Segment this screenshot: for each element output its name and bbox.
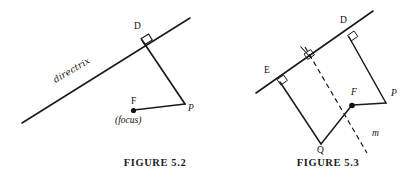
point-label-q-fig53: Q — [317, 146, 324, 156]
right-angle-mark-d-fig53 — [348, 31, 358, 41]
focus-note-label-fig52: (focus) — [115, 116, 141, 126]
directrix-line-fig53 — [256, 11, 373, 93]
segment-q-to-f-fig53 — [321, 105, 352, 144]
point-label-e-fig53: E — [264, 66, 270, 76]
figure-sheet: directrix D F (focus) P FIGURE 5.2 E D P… — [0, 0, 405, 178]
figure-5-2-drawing — [22, 18, 190, 123]
segment-p-to-f-fig53 — [353, 103, 386, 105]
point-label-d-fig52: D — [134, 22, 141, 32]
point-label-d-fig53: D — [340, 16, 347, 26]
point-label-f-fig53: F — [351, 88, 357, 98]
focus-point-dot-fig53 — [349, 103, 355, 109]
segment-d-to-p-fig52 — [142, 40, 185, 104]
segment-e-to-q-fig53 — [280, 82, 321, 144]
directrix-line-fig52 — [22, 18, 190, 123]
figure-caption-5-3: FIGURE 5.3 — [278, 157, 378, 168]
point-label-f-fig52: F — [131, 97, 136, 107]
geometry-drawing — [0, 0, 405, 178]
point-label-p-fig53: P — [391, 89, 397, 99]
point-label-p-fig52: P — [188, 104, 194, 114]
focus-point-dot-fig52 — [131, 108, 136, 113]
figure-caption-5-2: FIGURE 5.2 — [105, 157, 205, 168]
line-label-m-fig53: m — [372, 129, 379, 139]
figure-5-3-drawing — [256, 11, 386, 153]
segment-p-to-f-fig52 — [134, 104, 185, 110]
dashed-line-m-fig53 — [305, 47, 367, 153]
